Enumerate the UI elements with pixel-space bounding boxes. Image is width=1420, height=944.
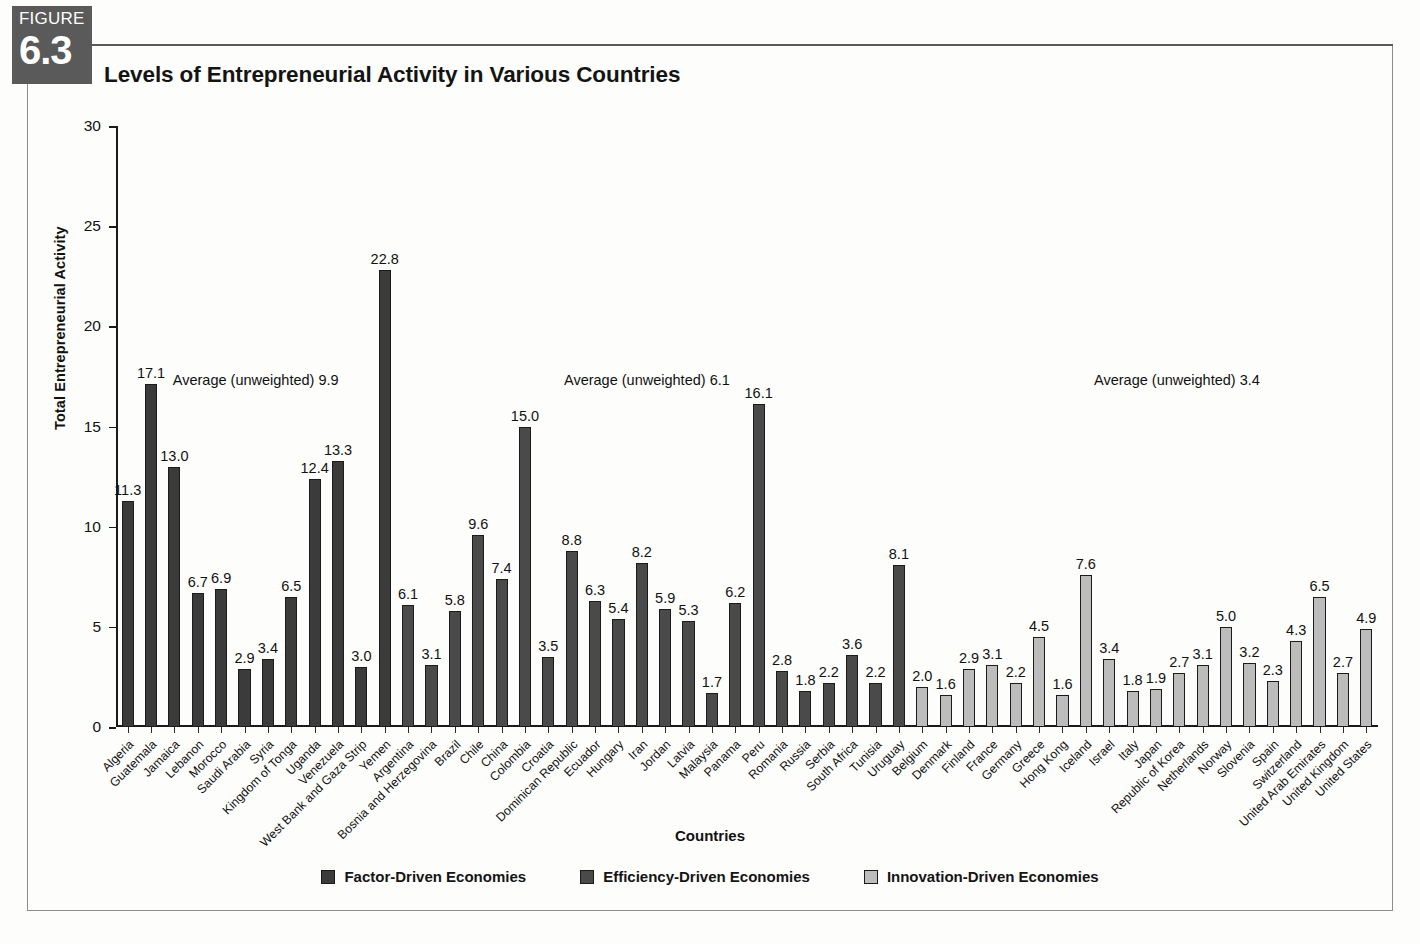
bar[interactable] <box>519 427 531 728</box>
bar-value-label: 2.7 <box>1169 655 1189 669</box>
bar[interactable] <box>1197 665 1209 727</box>
bar[interactable] <box>659 609 671 727</box>
legend-item-efficiency[interactable]: Efficiency-Driven Economies <box>580 868 810 885</box>
bar[interactable] <box>1103 659 1115 727</box>
x-axis-tick <box>291 727 292 733</box>
bar[interactable] <box>566 551 578 727</box>
bar-group: 2.3Spain <box>1261 126 1284 727</box>
bar[interactable] <box>355 667 367 727</box>
bar[interactable] <box>1080 575 1092 727</box>
bar-value-label: 2.3 <box>1263 663 1283 677</box>
bar[interactable] <box>706 693 718 727</box>
bar[interactable] <box>496 579 508 727</box>
bar-value-label: 8.1 <box>889 547 909 561</box>
bar[interactable] <box>682 621 694 727</box>
bar[interactable] <box>940 695 952 727</box>
bar[interactable] <box>1267 681 1279 727</box>
x-axis-tick <box>969 727 970 733</box>
bar[interactable] <box>589 601 601 727</box>
y-axis-tick-label: 25 <box>61 217 101 235</box>
bar[interactable] <box>379 270 391 727</box>
bar-group: 6.1Argentina <box>396 126 419 727</box>
bar[interactable] <box>986 665 998 727</box>
bar[interactable] <box>309 479 321 727</box>
legend-item-innovation[interactable]: Innovation-Driven Economies <box>864 868 1099 885</box>
y-axis-tick-label: 20 <box>61 317 101 335</box>
bar[interactable] <box>893 565 905 727</box>
bar[interactable] <box>238 669 250 727</box>
x-axis-tick <box>455 727 456 733</box>
bar-value-label: 13.0 <box>160 449 188 463</box>
bar-group: 7.4China <box>490 126 513 727</box>
bar[interactable] <box>402 605 414 727</box>
bar[interactable] <box>1243 663 1255 727</box>
bar[interactable] <box>1056 695 1068 727</box>
legend-item-factor[interactable]: Factor-Driven Economies <box>321 868 526 885</box>
bar[interactable] <box>332 461 344 727</box>
bar-group: 3.6South Africa <box>840 126 863 727</box>
bar[interactable] <box>1337 673 1349 727</box>
bar[interactable] <box>262 659 274 727</box>
bar-value-label: 4.3 <box>1286 623 1306 637</box>
bar[interactable] <box>1033 637 1045 727</box>
bar[interactable] <box>753 404 765 727</box>
x-axis-tick <box>1109 727 1110 733</box>
bar-value-label: 15.0 <box>511 409 539 423</box>
y-axis-tick-label: 0 <box>61 718 101 736</box>
bar-group: 2.7Republic of Korea <box>1168 126 1191 727</box>
bar[interactable] <box>776 671 788 727</box>
bar-group: 4.3Switzerland <box>1285 126 1308 727</box>
bar[interactable] <box>1313 597 1325 727</box>
x-axis-tick <box>315 727 316 733</box>
bar[interactable] <box>1360 629 1372 727</box>
x-axis-tick <box>852 727 853 733</box>
bar[interactable] <box>1173 673 1185 727</box>
x-axis-tick <box>922 727 923 733</box>
bar-value-label: 2.9 <box>234 651 254 665</box>
bar-group: 13.0Jamaica <box>163 126 186 727</box>
bar[interactable] <box>425 665 437 727</box>
bar[interactable] <box>145 384 157 727</box>
bar[interactable] <box>823 683 835 727</box>
bar-group: 13.3Venezuela <box>326 126 349 727</box>
bar-group: 6.7Lebanon <box>186 126 209 727</box>
bar[interactable] <box>472 535 484 727</box>
bar[interactable] <box>192 593 204 727</box>
average-annotation: Average (unweighted) 9.9 <box>173 372 339 388</box>
bar[interactable] <box>285 597 297 727</box>
bar-value-label: 9.6 <box>468 517 488 531</box>
bar[interactable] <box>542 657 554 727</box>
bar-group: 17.1Guatemala <box>139 126 162 727</box>
bar[interactable] <box>168 467 180 727</box>
bar[interactable] <box>1290 641 1302 727</box>
x-axis-tick <box>128 727 129 733</box>
bar[interactable] <box>1150 689 1162 727</box>
x-axis-tick <box>1203 727 1204 733</box>
x-axis-tick <box>1133 727 1134 733</box>
legend-label: Efficiency-Driven Economies <box>603 868 810 885</box>
bar[interactable] <box>1220 627 1232 727</box>
bar[interactable] <box>1010 683 1022 727</box>
bar[interactable] <box>1127 691 1139 727</box>
figure-page: FIGURE 6.3 Levels of Entrepreneurial Act… <box>0 0 1420 944</box>
bar[interactable] <box>799 691 811 727</box>
bar[interactable] <box>215 589 227 727</box>
chart-legend: Factor-Driven EconomiesEfficiency-Driven… <box>0 868 1420 885</box>
bar[interactable] <box>846 655 858 727</box>
bar[interactable] <box>122 501 134 727</box>
bar[interactable] <box>729 603 741 727</box>
bar[interactable] <box>916 687 928 727</box>
x-axis-tick <box>1039 727 1040 733</box>
bar[interactable] <box>636 563 648 727</box>
x-axis-tick <box>1296 727 1297 733</box>
bar[interactable] <box>869 683 881 727</box>
bar[interactable] <box>963 669 975 727</box>
bar[interactable] <box>449 611 461 727</box>
x-axis-tick <box>408 727 409 733</box>
bar-series: 11.3Algeria17.1Guatemala13.0Jamaica6.7Le… <box>116 126 1378 727</box>
bar-group: 8.2Iran <box>630 126 653 727</box>
bar[interactable] <box>612 619 624 727</box>
x-axis-tick <box>174 727 175 733</box>
bar-group: 16.1Peru <box>747 126 770 727</box>
y-axis-tick-label: 10 <box>61 518 101 536</box>
